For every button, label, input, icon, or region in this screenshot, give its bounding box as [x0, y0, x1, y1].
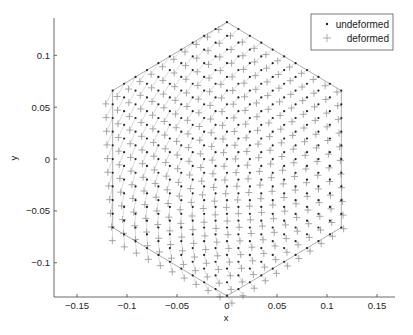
- undeformed-point: [203, 103, 205, 105]
- undeformed-point: [169, 206, 171, 208]
- undeformed-point: [157, 158, 159, 160]
- undeformed-point: [294, 226, 296, 228]
- undeformed-point: [192, 233, 194, 235]
- undeformed-point: [272, 240, 274, 242]
- undeformed-point: [272, 103, 274, 105]
- undeformed-point: [192, 42, 194, 44]
- undeformed-point: [112, 158, 114, 160]
- undeformed-point: [214, 69, 216, 71]
- undeformed-point: [203, 76, 205, 78]
- undeformed-point: [283, 83, 285, 85]
- undeformed-point: [146, 220, 148, 222]
- legend-label-deformed: deformed: [347, 33, 389, 44]
- undeformed-point: [306, 137, 308, 139]
- undeformed-point: [237, 28, 239, 30]
- undeformed-point: [226, 213, 228, 215]
- undeformed-point: [260, 83, 262, 85]
- undeformed-point: [249, 199, 251, 201]
- undeformed-point: [134, 226, 136, 228]
- undeformed-point: [169, 55, 171, 57]
- undeformed-point: [157, 62, 159, 64]
- undeformed-point: [226, 21, 228, 23]
- undeformed-point: [157, 117, 159, 119]
- undeformed-point: [123, 110, 125, 112]
- undeformed-point: [123, 137, 125, 139]
- undeformed-point: [329, 220, 331, 222]
- undeformed-point: [192, 261, 194, 263]
- undeformed-point: [340, 90, 342, 92]
- undeformed-point: [249, 117, 251, 119]
- undeformed-point: [123, 151, 125, 153]
- undeformed-point: [317, 76, 319, 78]
- undeformed-point: [214, 178, 216, 180]
- undeformed-point: [249, 240, 251, 242]
- deformed-markers: [102, 22, 347, 306]
- undeformed-point: [134, 117, 136, 119]
- undeformed-point: [272, 117, 274, 119]
- undeformed-point: [306, 233, 308, 235]
- undeformed-point: [329, 137, 331, 139]
- undeformed-point: [226, 172, 228, 174]
- undeformed-point: [123, 178, 125, 180]
- undeformed-point: [123, 96, 125, 98]
- undeformed-point: [272, 267, 274, 269]
- undeformed-point: [146, 151, 148, 153]
- undeformed-point: [306, 124, 308, 126]
- undeformed-point: [340, 172, 342, 174]
- undeformed-point: [180, 226, 182, 228]
- undeformed-point: [180, 48, 182, 50]
- undeformed-point: [226, 76, 228, 78]
- undeformed-point: [306, 206, 308, 208]
- undeformed-point: [283, 96, 285, 98]
- undeformed-point: [112, 144, 114, 146]
- undeformed-point: [169, 261, 171, 263]
- undeformed-point: [283, 220, 285, 222]
- undeformed-point: [112, 90, 114, 92]
- undeformed-point: [112, 131, 114, 133]
- undeformed-markers: [112, 21, 343, 297]
- undeformed-point: [294, 172, 296, 174]
- undeformed-point: [249, 185, 251, 187]
- deformed-point: [249, 257, 256, 264]
- undeformed-point: [203, 158, 205, 160]
- undeformed-point: [249, 281, 251, 283]
- undeformed-point: [226, 62, 228, 64]
- undeformed-point: [180, 90, 182, 92]
- undeformed-point: [260, 110, 262, 112]
- undeformed-point: [237, 178, 239, 180]
- undeformed-point: [146, 137, 148, 139]
- undeformed-point: [157, 199, 159, 201]
- undeformed-point: [226, 199, 228, 201]
- undeformed-point: [329, 206, 331, 208]
- undeformed-point: [214, 165, 216, 167]
- undeformed-point: [283, 178, 285, 180]
- undeformed-point: [134, 103, 136, 105]
- undeformed-point: [237, 55, 239, 57]
- undeformed-point: [214, 55, 216, 57]
- undeformed-point: [260, 124, 262, 126]
- undeformed-point: [214, 42, 216, 44]
- undeformed-point: [203, 185, 205, 187]
- undeformed-point: [169, 165, 171, 167]
- undeformed-point: [146, 69, 148, 71]
- undeformed-point: [329, 151, 331, 153]
- undeformed-point: [272, 144, 274, 146]
- undeformed-point: [237, 261, 239, 263]
- undeformed-point: [214, 28, 216, 30]
- undeformed-point: [112, 199, 114, 201]
- undeformed-point: [306, 178, 308, 180]
- undeformed-point: [192, 220, 194, 222]
- undeformed-point: [294, 185, 296, 187]
- undeformed-point: [226, 226, 228, 228]
- undeformed-point: [294, 103, 296, 105]
- undeformed-point: [157, 90, 159, 92]
- undeformed-point: [169, 110, 171, 112]
- undeformed-point: [157, 185, 159, 187]
- undeformed-point: [329, 96, 331, 98]
- undeformed-point: [294, 213, 296, 215]
- undeformed-point: [112, 213, 114, 215]
- undeformed-point: [203, 267, 205, 269]
- undeformed-point: [214, 137, 216, 139]
- undeformed-point: [317, 199, 319, 201]
- undeformed-point: [214, 192, 216, 194]
